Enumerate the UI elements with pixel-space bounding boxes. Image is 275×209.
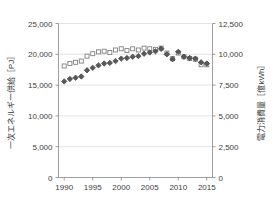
- chart-svg: 05,00010,00015,00020,00025,000 02,5005,0…: [0, 0, 275, 209]
- right-tick-label: 10,000: [219, 50, 244, 59]
- right-tick-label: 7,500: [219, 81, 240, 90]
- data-point-primary-energy: [62, 64, 66, 68]
- left-tick-label: 10,000: [28, 112, 53, 121]
- left-tick-label: 20,000: [28, 50, 53, 59]
- left-tick-label: 5,000: [32, 143, 53, 152]
- data-point-primary-energy: [79, 59, 83, 63]
- data-point-primary-energy: [142, 46, 146, 50]
- left-axis-title: 一次エネルギー供給［PJ］: [6, 52, 16, 149]
- left-tick-label: 0: [48, 174, 53, 183]
- right-tick-label: 5,000: [219, 112, 240, 121]
- data-point-primary-energy: [125, 49, 129, 53]
- right-axis-title: 電力消費量［億kWh］: [256, 61, 266, 141]
- data-point-primary-energy: [85, 54, 89, 58]
- right-tick-label: 12,500: [219, 20, 244, 29]
- x-tick-label: 2015: [198, 183, 216, 192]
- data-point-primary-energy: [131, 47, 135, 51]
- left-tick-label: 25,000: [28, 20, 53, 29]
- x-tick-label: 2005: [141, 183, 159, 192]
- left-tick-label: 15,000: [28, 81, 53, 90]
- data-point-primary-energy: [74, 60, 78, 64]
- data-point-primary-energy: [96, 50, 100, 54]
- data-point-primary-energy: [136, 48, 140, 52]
- x-tick-label: 2000: [112, 183, 130, 192]
- data-point-primary-energy: [68, 62, 72, 66]
- data-point-primary-energy: [108, 50, 112, 54]
- right-tick-label: 2,500: [219, 143, 240, 152]
- data-point-primary-energy: [102, 49, 106, 53]
- right-tick-label: 0: [219, 174, 224, 183]
- data-point-primary-energy: [119, 47, 123, 51]
- data-point-primary-energy: [114, 48, 118, 52]
- x-tick-label: 1990: [55, 183, 73, 192]
- chart-container: 05,00010,00015,00020,00025,000 02,5005,0…: [0, 0, 275, 209]
- x-tick-label: 1995: [84, 183, 102, 192]
- x-tick-label: 2010: [169, 183, 187, 192]
- data-point-primary-energy: [91, 52, 95, 56]
